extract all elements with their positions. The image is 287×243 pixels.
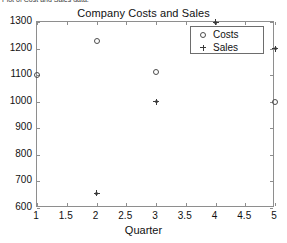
y-axis-tick xyxy=(37,155,40,156)
x-axis-tick xyxy=(245,203,246,206)
y-axis-tick-label: 800 xyxy=(0,148,32,159)
y-axis-tick-label: 1200 xyxy=(0,42,32,53)
x-axis-tick xyxy=(37,203,38,206)
chart-figure: Company Costs and Sales Quarter Costs Sa… xyxy=(0,0,287,243)
y-axis-tick xyxy=(37,22,40,23)
y-axis-tick xyxy=(270,128,273,129)
y-axis-tick xyxy=(37,102,40,103)
legend-entry-costs: Costs xyxy=(191,28,265,41)
x-axis-tick xyxy=(67,203,68,206)
y-axis-tick xyxy=(270,208,273,209)
legend-label: Costs xyxy=(213,28,239,41)
plus-marker-icon xyxy=(196,41,210,54)
x-axis-tick xyxy=(156,22,157,25)
y-axis-tick xyxy=(37,128,40,129)
chart-legend: Costs Sales xyxy=(190,26,264,54)
x-axis-tick xyxy=(126,22,127,25)
x-axis-tick xyxy=(186,22,187,25)
circle-marker-icon xyxy=(196,28,210,41)
y-axis-tick-label: 700 xyxy=(0,174,32,185)
y-axis-tick xyxy=(37,49,40,50)
y-axis-tick-label: 1000 xyxy=(0,95,32,106)
x-axis-tick-label: 5 xyxy=(254,210,287,221)
x-axis-tick xyxy=(216,203,217,206)
y-axis-tick-label: 1100 xyxy=(0,68,32,79)
y-axis-tick xyxy=(270,75,273,76)
y-axis-tick xyxy=(37,208,40,209)
x-axis-tick xyxy=(186,203,187,206)
x-axis-tick xyxy=(97,22,98,25)
y-axis-tick xyxy=(270,155,273,156)
y-axis-tick-label: 900 xyxy=(0,121,32,132)
y-axis-tick xyxy=(270,22,273,23)
x-axis-tick xyxy=(275,203,276,206)
x-axis-tick xyxy=(126,203,127,206)
x-axis-tick xyxy=(245,22,246,25)
legend-entry-sales: Sales xyxy=(191,41,265,54)
x-axis-tick xyxy=(67,22,68,25)
x-axis-tick xyxy=(275,22,276,25)
x-axis-tick xyxy=(156,203,157,206)
y-axis-tick-label: 1300 xyxy=(0,15,32,26)
chart-title: Company Costs and Sales xyxy=(0,7,287,19)
y-axis-tick-label: 600 xyxy=(0,201,32,212)
x-axis-tick xyxy=(97,203,98,206)
y-axis-tick xyxy=(37,181,40,182)
x-axis-label: Quarter xyxy=(0,224,287,236)
legend-label: Sales xyxy=(213,41,238,54)
y-axis-tick xyxy=(270,181,273,182)
